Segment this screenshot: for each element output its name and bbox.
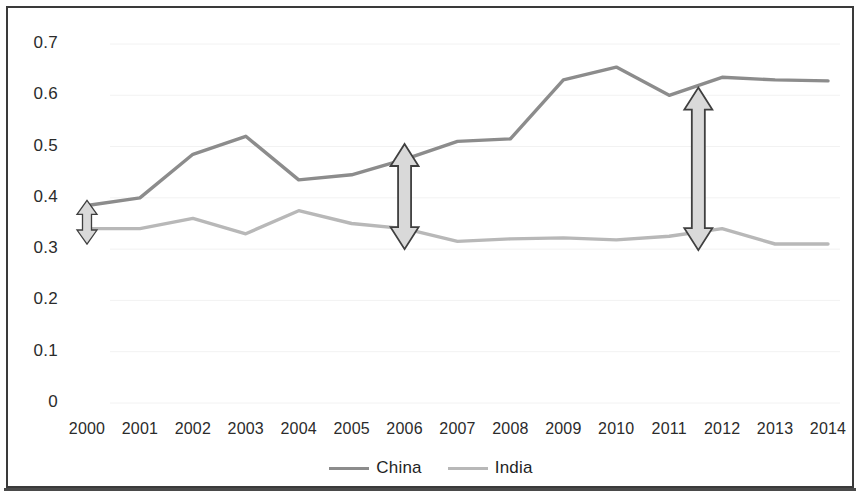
gap-arrow-2011 — [684, 88, 712, 251]
x-tick-label: 2011 — [642, 420, 696, 438]
x-tick-label: 2009 — [536, 420, 590, 438]
chart-screenshot: 00.10.20.30.40.50.60.7 20002001200220032… — [0, 0, 862, 501]
y-tick-label: 0.2 — [16, 289, 58, 309]
series-line-india — [87, 211, 828, 244]
x-tick-label: 2005 — [325, 420, 379, 438]
annotation-arrows-layer — [77, 88, 712, 251]
legend-label: China — [376, 458, 421, 478]
legend-item-china: China — [329, 458, 421, 478]
x-tick-label: 2012 — [695, 420, 749, 438]
gap-arrow-2000 — [77, 200, 97, 244]
x-tick-label: 2008 — [483, 420, 537, 438]
legend-item-india: India — [448, 458, 533, 478]
x-tick-label: 2010 — [589, 420, 643, 438]
y-tick-label: 0.1 — [16, 341, 58, 361]
data-series-layer — [87, 67, 828, 244]
x-tick-label: 2000 — [60, 420, 114, 438]
legend-line-swatch — [448, 467, 488, 470]
legend-label: India — [495, 458, 533, 478]
y-tick-label: 0 — [16, 392, 58, 412]
series-line-china — [87, 67, 828, 205]
x-tick-label: 2006 — [378, 420, 432, 438]
legend-line-swatch — [329, 467, 369, 470]
gap-arrow-2006 — [391, 144, 419, 249]
chart-legend: ChinaIndia — [0, 458, 862, 478]
faint-gridlines — [110, 44, 840, 403]
x-tick-label: 2001 — [113, 420, 167, 438]
y-tick-label: 0.3 — [16, 238, 58, 258]
x-tick-label: 2004 — [272, 420, 326, 438]
y-tick-label: 0.6 — [16, 84, 58, 104]
x-tick-label: 2007 — [431, 420, 485, 438]
x-tick-label: 2014 — [801, 420, 855, 438]
y-tick-label: 0.4 — [16, 187, 58, 207]
x-tick-label: 2013 — [748, 420, 802, 438]
x-tick-label: 2003 — [219, 420, 273, 438]
y-tick-label: 0.5 — [16, 136, 58, 156]
x-tick-label: 2002 — [166, 420, 220, 438]
y-tick-label: 0.7 — [16, 33, 58, 53]
